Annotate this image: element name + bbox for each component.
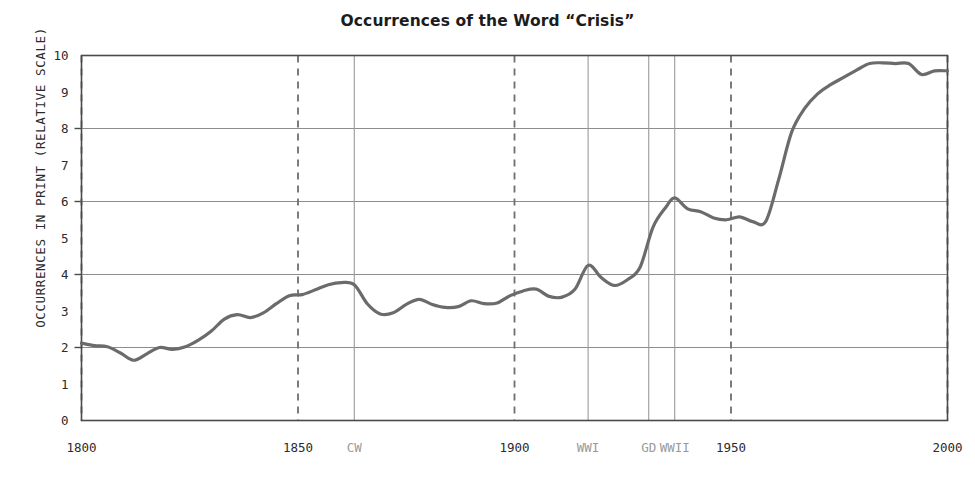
event-label-WWII: WWII [660, 440, 690, 455]
y-tick-label-3: 3 [61, 304, 69, 319]
y-tick-label-2: 2 [61, 340, 69, 355]
y-tick-label-4: 4 [61, 267, 69, 282]
y-tick-label-9: 9 [61, 85, 69, 100]
x-tick-label-1800: 1800 [66, 440, 96, 455]
y-tick-label-10: 10 [53, 48, 68, 63]
x-tick-label-1900: 1900 [499, 440, 529, 455]
year-marker-lines-group [82, 56, 948, 421]
y-tick-label-5: 5 [61, 231, 69, 246]
y-tick-label-7: 7 [61, 158, 69, 173]
y-tick-label-8: 8 [61, 121, 69, 136]
x-tick-label-1950: 1950 [716, 440, 746, 455]
y-tick-labels-group: 012345678910 [53, 48, 68, 428]
crisis-occurrences-chart: Occurrences of the Word “Crisis” OCCURRE… [0, 0, 975, 477]
x-tick-label-1850: 1850 [283, 440, 313, 455]
event-label-CW: CW [347, 440, 363, 455]
x-tick-label-2000: 2000 [932, 440, 962, 455]
y-tick-label-0: 0 [61, 413, 69, 428]
plot-area: 012345678910 18001850190019502000 CWWWIG… [0, 0, 975, 477]
x-tick-labels-group: 18001850190019502000 [66, 440, 962, 455]
event-label-GD: GD [641, 440, 656, 455]
event-label-WWI: WWI [577, 440, 600, 455]
y-tick-marks-group [75, 129, 82, 348]
y-tick-label-6: 6 [61, 194, 69, 209]
y-tick-label-1: 1 [61, 377, 69, 392]
